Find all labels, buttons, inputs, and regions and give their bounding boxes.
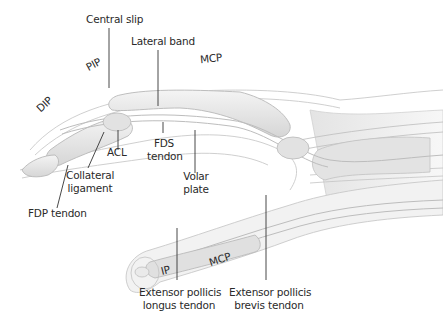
anatomy-illustration: [0, 0, 443, 325]
label-acl: ACL: [107, 146, 127, 159]
label-volar-line1: Volar: [181, 170, 211, 183]
label-fdp-tendon: FDP tendon: [28, 207, 87, 220]
label-epb-tendon: Extensor pollicis brevis tendon: [229, 286, 309, 312]
label-fds-line2: tendon: [147, 150, 181, 163]
label-epl-tendon: Extensor pollicis longus tendon: [139, 286, 219, 312]
distal-phalanx: [22, 155, 59, 177]
label-mcp-finger: MCP: [199, 51, 222, 66]
label-lateral-band: Lateral band: [131, 35, 195, 48]
label-volar-plate: Volar plate: [181, 170, 211, 196]
label-epb-line1: Extensor pollicis: [229, 286, 309, 299]
label-fds-tendon: FDS tendon: [147, 137, 181, 163]
label-epb-line2: brevis tendon: [229, 299, 309, 312]
pip-joint-capsule: [103, 113, 131, 131]
label-central-slip: Central slip: [86, 13, 143, 26]
label-epl-line1: Extensor pollicis: [139, 286, 219, 299]
volar-plate: [277, 137, 309, 159]
label-collateral-line2: ligament: [66, 182, 114, 195]
label-collateral-line1: Collateral: [66, 169, 114, 182]
label-fds-line1: FDS: [147, 137, 181, 150]
label-collateral-ligament: Collateral ligament: [66, 169, 114, 195]
thumb: [126, 180, 443, 292]
label-epl-line2: longus tendon: [139, 299, 219, 312]
label-volar-line2: plate: [181, 183, 211, 196]
